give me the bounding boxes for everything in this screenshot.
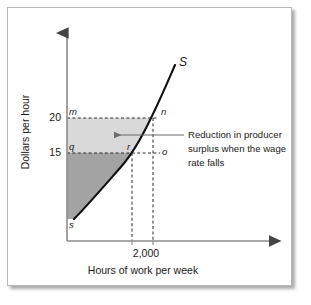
region-remaining-producer-surplus [67,153,132,219]
x-axis-tick-2000: 2,000 [111,247,181,259]
callout-line-3: rate falls [188,156,293,170]
reduction-callout-text: Reduction in producer surplus when the w… [188,128,293,170]
supply-curve-label: S [179,55,187,69]
x-axis-title: Hours of work per week [28,264,258,276]
callout-line-1: Reduction in producer [188,128,293,142]
point-label-s: s [69,219,74,230]
y-axis-title: Dollars per hour [19,77,31,187]
callout-line-2: surplus when the wage [188,142,293,156]
point-label-n: n [161,106,166,117]
y-axis-tick-15: 15 [35,146,61,158]
point-label-o: o [162,146,167,157]
point-label-m: m [69,106,77,117]
point-label-q: q [69,141,74,152]
figure-frame: Dollars per hour Hours of work per week … [7,7,292,286]
y-axis-tick-20: 20 [35,111,61,123]
point-label-r: r [127,141,130,152]
